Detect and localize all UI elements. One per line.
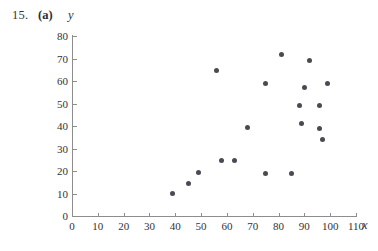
data-point [302, 85, 307, 90]
data-point [297, 103, 302, 108]
y-tick-label-wrap: 40 [40, 121, 68, 132]
x-axis-title: x [362, 218, 368, 233]
data-point [186, 181, 191, 186]
data-point [320, 137, 325, 142]
y-tick-label-wrap: 60 [40, 76, 68, 87]
data-point [289, 171, 294, 176]
data-point [317, 126, 322, 131]
data-point [219, 158, 224, 163]
y-tick-mark [73, 171, 77, 172]
x-tick-mark [279, 213, 280, 217]
y-tick-label-wrap: 70 [40, 54, 68, 65]
x-tick-mark [201, 213, 202, 217]
y-tick-mark [73, 126, 77, 127]
y-tick-label-wrap: 20 [40, 166, 68, 177]
y-tick-mark [73, 81, 77, 82]
y-tick-label: 30 [44, 144, 68, 155]
data-point [232, 158, 237, 163]
y-tick-mark [73, 59, 77, 60]
y-tick-label: 40 [44, 121, 68, 132]
y-tick-mark [73, 104, 77, 105]
y-tick-label: 80 [44, 31, 68, 42]
y-tick-label-wrap: 30 [40, 144, 68, 155]
data-point [170, 191, 175, 196]
y-tick-label: 20 [44, 166, 68, 177]
y-tick-label-wrap: 10 [40, 189, 68, 200]
data-point [263, 171, 268, 176]
y-tick-mark [73, 36, 77, 37]
x-tick-mark [356, 213, 357, 217]
x-tick-mark [304, 213, 305, 217]
data-point [214, 68, 219, 73]
data-point [325, 81, 330, 86]
data-point [263, 81, 268, 86]
y-tick-label: 70 [44, 54, 68, 65]
x-tick-mark [149, 213, 150, 217]
data-point [317, 103, 322, 108]
y-tick-label: 50 [44, 99, 68, 110]
x-tick-mark [175, 213, 176, 217]
y-tick-mark [73, 149, 77, 150]
x-tick-mark [98, 213, 99, 217]
y-tick-label: 10 [44, 189, 68, 200]
data-point [245, 125, 250, 130]
data-point [196, 170, 201, 175]
y-tick-label: 60 [44, 76, 68, 87]
data-point [307, 58, 312, 63]
data-point [279, 52, 284, 57]
figure-root: 15. (a) y 01020304050607080 010203040506… [0, 0, 378, 251]
scatter-plot: 01020304050607080 0102030405060708090100… [0, 0, 378, 251]
y-tick-label-wrap: 50 [40, 99, 68, 110]
x-axis-line [72, 216, 356, 217]
data-point [299, 121, 304, 126]
y-tick-label-wrap: 80 [40, 31, 68, 42]
x-tick-mark [253, 213, 254, 217]
x-tick-mark [330, 213, 331, 217]
y-tick-mark [73, 194, 77, 195]
x-tick-mark [227, 213, 228, 217]
x-tick-mark [124, 213, 125, 217]
